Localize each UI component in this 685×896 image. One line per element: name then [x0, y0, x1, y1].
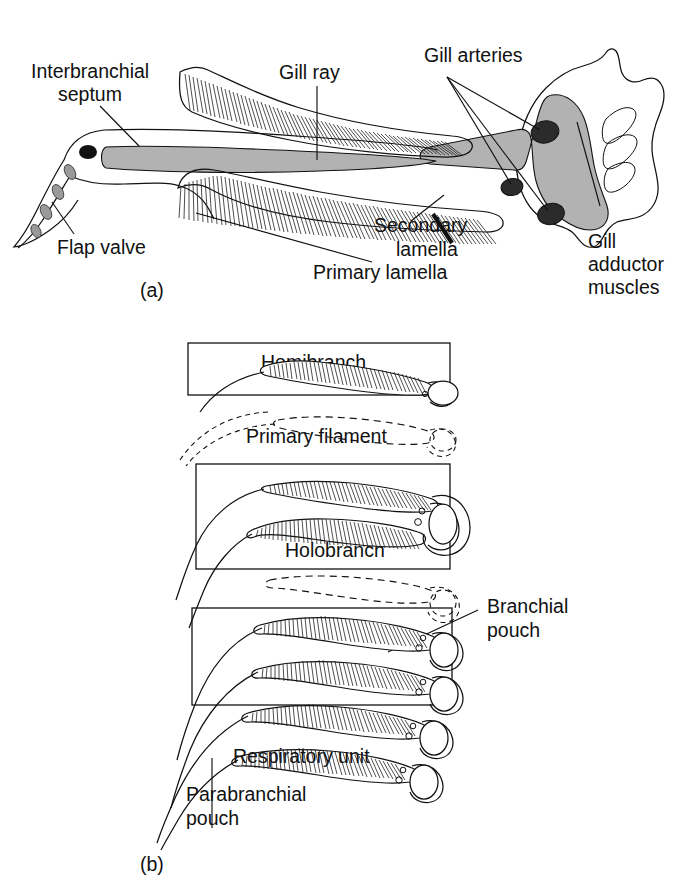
label-interbranchial-septum-line1: Interbranchial [31, 60, 149, 82]
label-parabranchial-pouch-line1: Parabranchial [186, 783, 306, 805]
stack-dashed-oval [430, 590, 456, 616]
caption-panel-a: (a) [140, 279, 164, 301]
gill-artery-middle [500, 177, 525, 198]
stack-oval-3 [420, 721, 448, 755]
holobranch-septum-outer [176, 489, 264, 600]
label-respiratory-unit: Respiratory unit [233, 745, 370, 767]
holobranch-artery-dot-2 [415, 519, 422, 526]
stack-oval-1 [430, 633, 458, 667]
label-branchial-pouch-line1: Branchial [487, 595, 568, 617]
septum-body-outline-lower [70, 176, 214, 219]
stack-septum-curve-1 [177, 628, 262, 760]
label-gill-ray: Gill ray [279, 61, 340, 83]
primary-filament-dashed-arch [427, 429, 456, 457]
panel-a: Interbranchial septum Gill ray Gill arte… [14, 44, 664, 301]
hemibranch-septum-curve [200, 372, 264, 412]
primary-filament-dashed-oval [430, 429, 456, 451]
figure-canvas: Interbranchial septum Gill ray Gill arte… [0, 0, 685, 896]
label-gill-adductor-line3: muscles [588, 276, 660, 298]
label-interbranchial-septum-line2: septum [58, 83, 122, 105]
label-primary-filament: Primary filament [246, 425, 387, 447]
stack-filament-2 [252, 662, 438, 695]
hemibranch-arch-oval [428, 381, 458, 405]
leader-flap-valve [52, 202, 74, 234]
label-parabranchial-pouch-line2: pouch [186, 807, 239, 829]
gill-rakers [602, 108, 637, 193]
holobranch-arch-oval [429, 504, 457, 544]
label-gill-adductor-line2: adductor [588, 253, 664, 275]
afferent-artery-left [79, 145, 97, 159]
label-secondary-lamella-line2: lamella [396, 238, 458, 260]
label-secondary-lamella-line1: Secondary [374, 214, 467, 236]
label-gill-adductor-line1: Gill [588, 230, 616, 252]
stack-oval-4 [410, 765, 438, 799]
stack-filament-3 [242, 706, 428, 739]
stack-oval-2 [430, 677, 458, 711]
label-primary-lamella: Primary lamella [313, 261, 448, 283]
leader-interbranchial-septum [100, 106, 139, 146]
stack-dashed-filament [265, 576, 435, 603]
caption-panel-b: (b) [140, 853, 164, 875]
figure-gill-anatomy: Interbranchial septum Gill ray Gill arte… [0, 0, 685, 896]
holobranch-septum-inner [189, 534, 252, 628]
label-gill-arteries: Gill arteries [424, 44, 523, 66]
stack-dashed-arch [428, 587, 459, 622]
label-branchial-pouch-line2: pouch [487, 619, 540, 641]
panel-b: Hemibranch Primary fil [140, 343, 568, 875]
label-flap-valve: Flap valve [57, 236, 146, 258]
